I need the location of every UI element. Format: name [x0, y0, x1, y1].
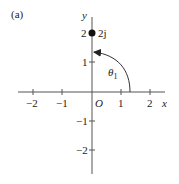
y-tick-label-neg1: −1 [76, 116, 88, 127]
y-tick-label-2: 2 [81, 28, 87, 39]
complex-plane-diagram: (a) y x O −2 −1 1 2 2 1 −1 −2 2j θ1 [0, 0, 179, 184]
point-label-2j: 2j [98, 28, 107, 39]
angle-subscript: 1 [113, 72, 117, 81]
angle-label-theta1: θ1 [108, 67, 117, 81]
point-2j [89, 30, 96, 37]
y-tick-label-neg2: −2 [76, 145, 88, 156]
y-axis-label: y [82, 10, 87, 21]
panel-label: (a) [11, 9, 23, 20]
y-tick-label-1: 1 [82, 57, 88, 68]
x-tick-label-neg1: −1 [56, 98, 68, 109]
x-tick-label-1: 1 [118, 98, 124, 109]
x-tick-label-neg2: −2 [26, 98, 38, 109]
x-tick-label-2: 2 [147, 98, 153, 109]
origin-label: O [95, 98, 103, 109]
x-axis-label: x [162, 98, 167, 109]
